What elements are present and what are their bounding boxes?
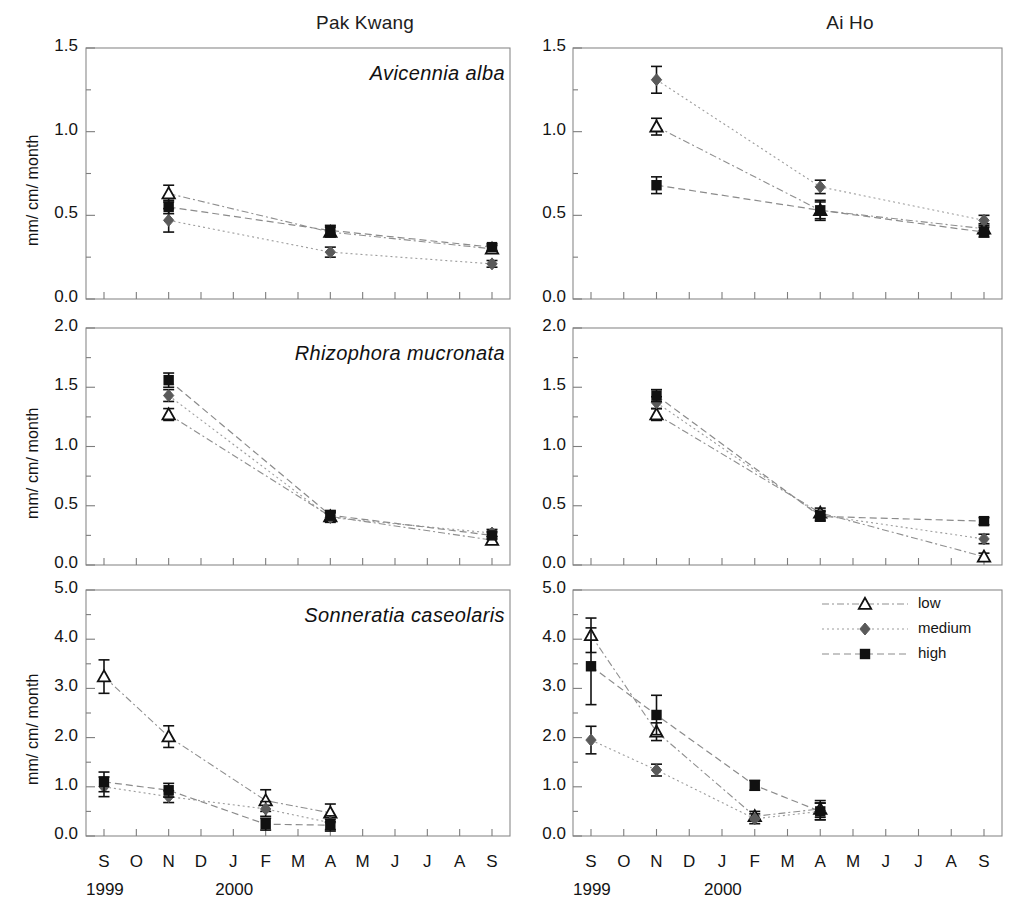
marker-high [979,516,989,526]
marker-high [487,530,497,540]
x-axis-tick-label: S [92,852,116,872]
y-axis-tick-label: 2.0 [20,316,78,336]
marker-high [99,777,109,787]
x-axis-tick-label: O [124,852,148,872]
y-axis-tick-label: 1.5 [510,36,566,56]
y-axis-tick-label: 0.0 [510,824,566,844]
x-axis-tick-label: F [254,852,278,872]
marker-high [325,225,335,235]
marker-high [325,510,335,520]
x-axis-tick-label: A [448,852,472,872]
x-axis-tick-label: J [383,852,407,872]
x-axis-tick-label: J [710,852,734,872]
panel-frame [573,48,1002,299]
panel-frame [573,328,1002,565]
x-axis-tick-label: D [189,852,213,872]
y-axis-tick-label: 2.0 [510,316,566,336]
x-axis-tick-label: N [157,852,181,872]
x-axis-tick-label: O [612,852,636,872]
y-axis-tick-label: 1.0 [510,120,566,140]
x-axis-tick-label: J [415,852,439,872]
species-label: Sonneratia caseolaris [304,604,505,627]
y-axis-tick-label: 1.5 [20,36,78,56]
x-axis-tick-label: S [480,852,504,872]
marker-high [979,227,989,237]
legend-label-high[interactable]: high [918,644,946,661]
y-axis-tick-label: 5.0 [510,578,566,598]
marker-high [815,806,825,816]
y-axis-tick-label: 2.0 [510,726,566,746]
x-axis-year-label: 2000 [215,880,275,900]
y-axis-tick-label: 0.0 [20,287,78,307]
x-axis-tick-label: A [808,852,832,872]
y-axis-tick-label: 4.0 [20,627,78,647]
marker-high [651,390,661,400]
figure-root: Pak Kwang Ai Ho 0.00.51.01.5Avicennia al… [0,0,1013,912]
marker-high [163,375,173,385]
marker-high [163,202,173,212]
x-axis-tick-label: D [677,852,701,872]
marker-high [815,511,825,521]
species-label: Avicennia alba [370,62,505,85]
x-axis-tick-label: M [841,852,865,872]
x-axis-tick-label: F [743,852,767,872]
x-axis-tick-label: M [286,852,310,872]
y-axis-tick-label: 1.0 [510,435,566,455]
y-axis-tick-label: 0.0 [510,287,566,307]
x-axis-tick-label: J [221,852,245,872]
x-axis-tick-label: J [874,852,898,872]
panel-avicennia-pak-kwang [86,48,510,299]
marker-high [651,710,661,720]
x-axis-year-label: 1999 [86,880,146,900]
y-axis-tick-label: 0.0 [20,553,78,573]
x-axis-tick-label: M [351,852,375,872]
y-axis-tick-label: 1.0 [510,775,566,795]
x-axis-year-label: 2000 [704,880,764,900]
y-axis-tick-label: 5.0 [20,578,78,598]
plot-surface [0,0,1013,912]
x-axis-year-label: 1999 [573,880,633,900]
y-axis-tick-label: 1.5 [20,375,78,395]
y-axis-title: mm/ cm/ month [24,673,42,785]
marker-high [325,820,335,830]
y-axis-title: mm/ cm/ month [24,134,42,246]
legend-label-low[interactable]: low [918,594,941,611]
marker-high [750,780,760,790]
y-axis-tick-label: 3.0 [510,676,566,696]
marker-high [163,785,173,795]
y-axis-tick-label: 4.0 [510,627,566,647]
marker-high [586,661,596,671]
x-axis-tick-label: J [907,852,931,872]
x-axis-tick-label: N [645,852,669,872]
x-axis-tick-label: S [579,852,603,872]
panel-avicennia-ai-ho [573,48,1002,299]
panel-frame [86,48,510,299]
x-axis-tick-label: S [972,852,996,872]
y-axis-tick-label: 1.5 [510,375,566,395]
y-axis-tick-label: 0.5 [510,203,566,223]
y-axis-tick-label: 0.0 [20,824,78,844]
marker-high [860,649,870,659]
legend-label-medium[interactable]: medium [918,619,971,636]
y-axis-tick-label: 0.0 [510,553,566,573]
species-label: Rhizophora mucronata [295,342,505,365]
marker-high [651,180,661,190]
marker-high [260,819,270,829]
x-axis-tick-label: M [776,852,800,872]
panel-rhizophora-ai-ho [573,328,1002,565]
marker-high [815,205,825,215]
marker-high [487,242,497,252]
x-axis-tick-label: A [939,852,963,872]
x-axis-tick-label: A [318,852,342,872]
y-axis-tick-label: 0.5 [510,494,566,514]
y-axis-title: mm/ cm/ month [24,407,42,519]
